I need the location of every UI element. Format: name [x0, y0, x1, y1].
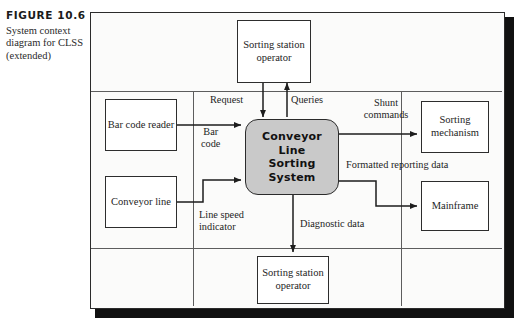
terminator-bar-code-reader[interactable]: Bar code reader	[105, 99, 177, 151]
figure-caption: FIGURE 10.6 System context diagram for C…	[6, 9, 84, 62]
terminator-sorting-mechanism[interactable]: Sorting mechanism	[421, 101, 489, 153]
flow-label-bar-code: Bar code	[201, 126, 220, 150]
figure-description: System context diagram for CLSS (extende…	[6, 25, 84, 62]
terminator-sorting-station-operator-top[interactable]: Sorting station operator	[237, 20, 311, 83]
terminator-label: Sorting station operator	[258, 267, 328, 292]
flow-label-diagnostic-data: Diagnostic data	[300, 218, 364, 230]
terminator-label: Sorting mechanism	[422, 114, 488, 139]
flow-arrow-line-speed-indicator	[177, 180, 241, 202]
terminator-label: Bar code reader	[108, 119, 174, 132]
flow-label-formatted-reporting-data: Formatted reporting data	[346, 159, 448, 171]
divider-left-vertical	[193, 91, 194, 306]
context-diagram: Sorting station operator Bar code reader…	[90, 12, 514, 318]
terminator-label: Mainframe	[432, 200, 479, 213]
divider-right-vertical	[401, 91, 402, 306]
divider-top-horizontal	[91, 91, 502, 92]
terminator-label: Conveyor line	[111, 196, 171, 209]
flow-label-shunt-commands: Shunt commands	[356, 97, 416, 121]
figure-number: FIGURE 10.6	[6, 9, 84, 22]
terminator-conveyor-line[interactable]: Conveyor line	[105, 176, 177, 228]
terminator-label: Sorting station operator	[238, 39, 310, 64]
flow-label-request: Request	[210, 94, 243, 106]
process-label: ConveyorLineSortingSystem	[262, 130, 322, 184]
divider-bottom-horizontal	[91, 248, 502, 249]
diagram-frame: Sorting station operator Bar code reader…	[90, 12, 505, 309]
flow-label-line-speed-indicator: Line speed indicator	[199, 209, 244, 233]
terminator-mainframe[interactable]: Mainframe	[421, 181, 489, 231]
process-conveyor-line-sorting-system[interactable]: ConveyorLineSortingSystem	[245, 119, 339, 195]
flow-label-queries: Queries	[291, 94, 323, 106]
terminator-sorting-station-operator-bottom[interactable]: Sorting station operator	[257, 256, 329, 304]
flow-arrow-formatted-reporting-data	[339, 181, 417, 206]
